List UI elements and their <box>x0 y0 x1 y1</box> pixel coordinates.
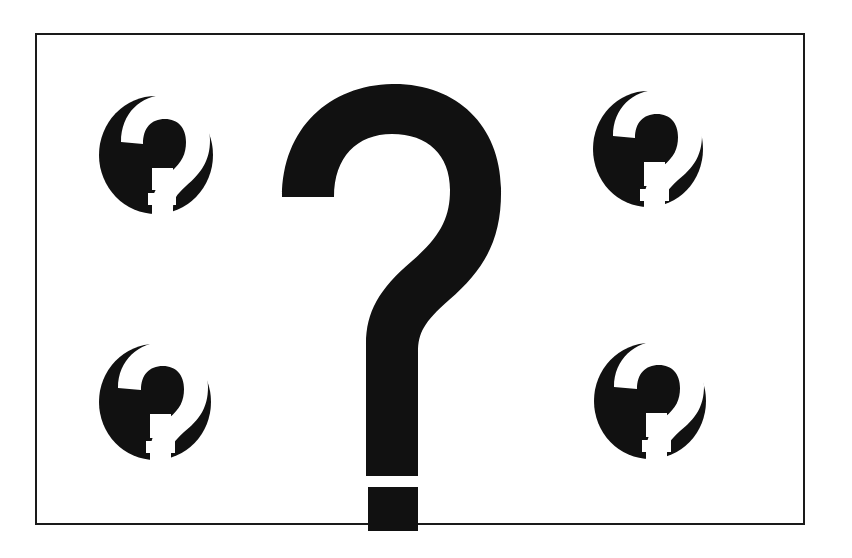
badge-dot <box>146 441 175 453</box>
badge-dot <box>642 440 671 452</box>
question-mark-badge-top-right[interactable] <box>593 90 703 210</box>
badge-dot <box>640 189 669 201</box>
badge-stem <box>152 168 173 190</box>
large-question-mark-hook <box>282 84 501 368</box>
badge-stem <box>150 414 171 438</box>
large-question-mark-stem <box>366 358 418 476</box>
question-marks-artwork <box>0 0 852 558</box>
question-mark-badge-bottom-left[interactable] <box>99 342 211 462</box>
question-mark-badge-top-left[interactable] <box>99 95 213 216</box>
question-mark-badge-bottom-right[interactable] <box>594 341 706 461</box>
large-question-mark-dot <box>368 487 418 531</box>
badge-stem <box>646 413 667 437</box>
badge-dot <box>148 193 176 205</box>
large-question-mark <box>282 84 501 531</box>
badge-stem <box>644 162 665 186</box>
illustration-canvas: A bordered panel containing one large bl… <box>0 0 852 558</box>
